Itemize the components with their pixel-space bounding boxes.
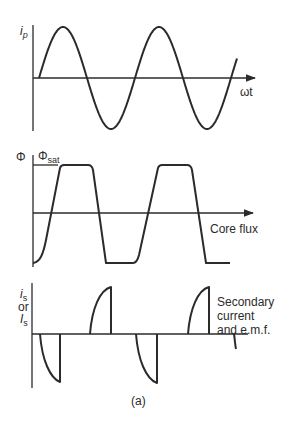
figure-caption: (a) xyxy=(131,394,146,408)
saturation-label: Φsat xyxy=(38,149,60,165)
current-transformer-waveforms: ip ωt Φ Φsat Core flux is or Is Secondar… xyxy=(0,0,286,426)
secondary-pulse-negative-2 xyxy=(136,334,157,383)
secondary-pulse-negative-1 xyxy=(40,334,60,382)
secondary-pulse-positive-2 xyxy=(188,287,209,334)
secondary-pulse-positive-1 xyxy=(90,287,111,334)
core-flux-panel: Φ Φsat Core flux xyxy=(16,149,258,267)
secondary-label-line-3: and e.m.f. xyxy=(217,323,270,337)
x-axis-label: Core flux xyxy=(210,222,258,236)
y-axis-label: Φ xyxy=(16,150,26,164)
y-axis-label-Is: Is xyxy=(20,312,28,328)
core-flux-curve xyxy=(33,165,230,263)
primary-current-panel: ip ωt xyxy=(20,24,255,131)
x-axis-label: ωt xyxy=(240,85,253,99)
secondary-label-line-1: Secondary xyxy=(217,295,274,309)
secondary-panel: is or Is Secondary current and e.m.f. xyxy=(18,283,274,388)
y-axis-label: ip xyxy=(20,24,28,40)
secondary-label-line-2: current xyxy=(217,309,255,323)
